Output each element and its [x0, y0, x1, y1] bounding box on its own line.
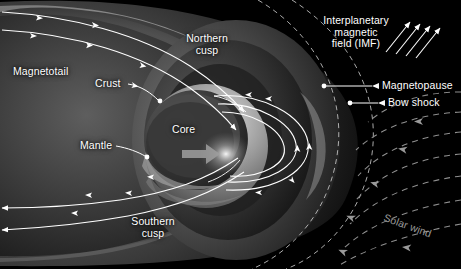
- northern-cusp-line-1: Northern: [178, 33, 236, 45]
- label-magnetotail: Magnetotail: [13, 66, 68, 78]
- imf-line-1: Interplanetary: [322, 15, 390, 27]
- mantle-leader-dot: [145, 155, 150, 160]
- label-northern-cusp: Northern cusp: [178, 33, 236, 56]
- label-southern-cusp: Southern cusp: [122, 216, 184, 239]
- northern-cusp-line-2: cusp: [178, 45, 236, 57]
- label-imf: Interplanetary magnetic field (IMF): [322, 15, 390, 50]
- label-crust: Crust: [95, 78, 121, 90]
- label-bow-shock: Bow shock: [388, 97, 440, 109]
- magnetopause-leader-dot: [322, 84, 327, 89]
- magnetosphere-figure: Magnetotail Northern cusp Crust Mantle C…: [0, 0, 461, 269]
- bow-shock-leader-dot: [348, 101, 353, 106]
- southern-cusp-line-2: cusp: [122, 228, 184, 240]
- label-magnetopause: Magnetopause: [382, 80, 453, 92]
- imf-line-3: field (IMF): [322, 38, 390, 50]
- label-mantle: Mantle: [80, 140, 112, 152]
- southern-cusp-line-1: Southern: [122, 216, 184, 228]
- crust-leader-dot: [158, 99, 163, 104]
- figure-stage: Magnetotail Northern cusp Crust Mantle C…: [0, 0, 461, 275]
- label-core: Core: [172, 124, 195, 136]
- figure-bottom-margin: [0, 269, 461, 275]
